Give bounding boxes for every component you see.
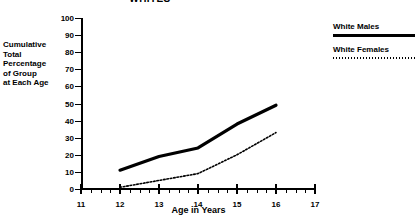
x-tick-minor-mark [208, 189, 209, 193]
legend-entry-white-males: White Males [333, 22, 417, 37]
x-tick-minor-mark [286, 189, 287, 193]
x-tick-minor-mark [257, 189, 258, 193]
series-line-white-females [120, 133, 276, 188]
y-axis-title-line: Cumulative [3, 40, 63, 50]
y-tick-label: 80 [65, 48, 74, 57]
x-tick-minor-mark [130, 189, 131, 193]
x-tick-minor-mark [101, 189, 102, 193]
y-tick-label: 90 [65, 31, 74, 40]
x-tick-minor-mark [247, 189, 248, 193]
series-line-white-males [120, 105, 276, 170]
y-axis-title-line: Total [3, 50, 63, 60]
plot-area: 0102030405060708090100 11121314151617 [81, 18, 315, 189]
x-axis-title: Age in Years [81, 205, 316, 215]
x-tick-minor-mark [91, 189, 92, 193]
legend-entry-white-females: White Females [333, 45, 417, 59]
y-tick-label: 100 [61, 14, 74, 23]
legend-swatch-dotted-line [333, 57, 415, 59]
legend-label: White Males [333, 22, 417, 31]
y-tick-label: 70 [65, 65, 74, 74]
y-tick-label: 0 [70, 185, 74, 194]
legend-label: White Females [333, 45, 417, 54]
y-tick-label: 50 [65, 99, 74, 108]
y-axis-title-line: of Group [3, 69, 63, 79]
x-tick-minor-mark [169, 189, 170, 193]
chart-legend: White Males White Females [333, 22, 417, 67]
y-axis-title-line: Percentage [3, 59, 63, 69]
x-tick-minor-mark [140, 189, 141, 193]
x-tick-minor-mark [149, 189, 150, 193]
x-tick-minor-mark [296, 189, 297, 193]
chart-title: WHITES [0, 0, 300, 4]
x-tick-minor-mark [218, 189, 219, 193]
x-tick-minor-mark [110, 189, 111, 193]
x-tick-minor-mark [227, 189, 228, 193]
y-tick-label: 40 [65, 116, 74, 125]
y-axis-title-line: at Each Age [3, 78, 63, 88]
legend-swatch-solid-line [333, 34, 415, 37]
x-tick-minor-mark [179, 189, 180, 193]
data-series-group [81, 18, 315, 189]
x-tick-minor-mark [266, 189, 267, 193]
y-axis-title: Cumulative Total Percentage of Group at … [3, 40, 63, 88]
y-tick-label: 10 [65, 167, 74, 176]
x-tick-minor-mark [305, 189, 306, 193]
x-tick-minor-mark [188, 189, 189, 193]
y-tick-label: 20 [65, 150, 74, 159]
y-tick-label: 60 [65, 82, 74, 91]
y-tick-label: 30 [65, 133, 74, 142]
